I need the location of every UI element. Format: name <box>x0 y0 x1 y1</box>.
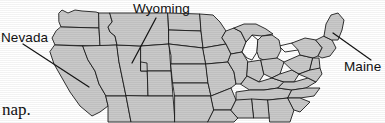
us-map-graphic <box>0 0 385 123</box>
state-maine <box>324 13 344 40</box>
state-alabama <box>252 99 270 118</box>
state-texas <box>175 96 214 122</box>
state-new-mexico <box>126 96 175 122</box>
callout-label-maine: Maine <box>344 60 381 74</box>
leader-line-maine <box>333 33 371 60</box>
callout-label-wyoming: Wyoming <box>133 2 190 16</box>
state-kansas <box>171 64 208 83</box>
screenshot-root: Nevada Wyoming Maine nap. <box>0 0 385 123</box>
state-oklahoma <box>173 83 211 96</box>
map-states-west <box>50 10 175 122</box>
state-north-carolina <box>288 88 320 98</box>
state-oregon <box>52 27 100 46</box>
callout-label-nevada: Nevada <box>1 31 48 45</box>
state-iowa <box>203 44 231 64</box>
map-states-east <box>231 13 344 122</box>
state-minnesota <box>200 14 226 48</box>
caption-text-fragment: nap. <box>2 101 31 118</box>
us-map-figure: Nevada Wyoming Maine <box>0 0 385 123</box>
state-montana <box>108 13 169 46</box>
state-washington <box>59 10 99 28</box>
